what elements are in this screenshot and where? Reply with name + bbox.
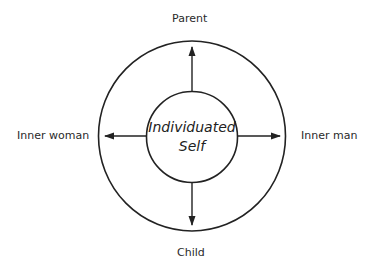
center-label: Individuated Self [142,118,242,156]
label-child: Child [177,246,205,259]
label-parent: Parent [172,12,207,25]
center-label-line1: Individuated [142,118,242,137]
label-inner-woman: Inner woman [17,129,89,142]
label-inner-man: Inner man [301,129,357,142]
center-label-line2: Self [142,137,242,156]
